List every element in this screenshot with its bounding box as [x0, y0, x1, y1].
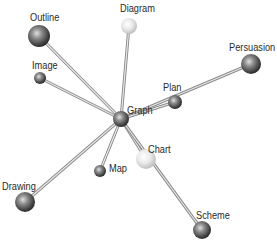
node-scheme-icon	[193, 221, 211, 239]
edge-scheme	[121, 119, 202, 230]
node-image-icon	[34, 72, 46, 84]
node-plan-icon	[168, 95, 182, 109]
edges-layer	[25, 26, 251, 230]
node-map-icon	[94, 165, 106, 177]
node-label-drawing: Drawing	[2, 180, 36, 192]
node-outline-icon	[28, 25, 50, 47]
node-label-outline: Outline	[30, 11, 59, 23]
edge-outline	[39, 36, 121, 119]
edge-image	[40, 78, 121, 119]
node-label-graph: Graph	[127, 104, 153, 116]
node-drawing-icon	[15, 192, 35, 212]
node-label-plan: Plan	[163, 81, 181, 93]
node-label-scheme: Scheme	[196, 209, 230, 221]
network-diagram	[0, 0, 277, 242]
node-label-diagram: Diagram	[120, 2, 155, 14]
node-diagram-icon	[121, 18, 137, 34]
node-label-image: Image	[32, 59, 58, 71]
node-label-map: Map	[109, 162, 127, 174]
node-persuasion-icon	[241, 54, 261, 74]
node-label-chart: Chart	[148, 143, 171, 155]
node-label-persuasion: Persuasion	[229, 41, 275, 53]
edge-drawing	[25, 119, 121, 202]
